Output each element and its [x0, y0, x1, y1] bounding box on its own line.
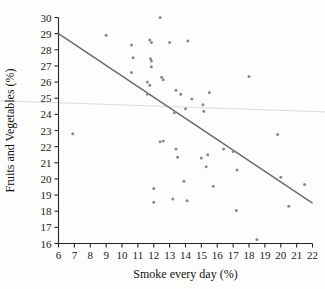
data-point: [152, 187, 155, 190]
data-point: [184, 107, 187, 110]
data-point: [174, 89, 177, 92]
x-tick-label: 18: [244, 249, 256, 261]
x-tick-label: 16: [212, 249, 224, 261]
data-point: [130, 43, 133, 46]
data-point: [173, 111, 176, 114]
data-point: [255, 238, 258, 241]
x-tick-label: 15: [196, 249, 208, 261]
x-tick-label: 22: [307, 249, 318, 261]
data-point: [146, 93, 149, 96]
data-point: [146, 81, 149, 84]
data-point: [171, 198, 174, 201]
data-point: [162, 78, 165, 81]
data-point: [190, 98, 193, 101]
y-tick-label: 21: [41, 157, 52, 169]
y-tick-label: 30: [41, 12, 53, 24]
data-point: [182, 180, 185, 183]
y-tick-label: 24: [41, 108, 53, 120]
data-point: [202, 110, 205, 113]
data-point: [303, 183, 306, 186]
data-point: [206, 153, 209, 156]
y-tick-label: 18: [41, 205, 53, 217]
data-point: [287, 205, 290, 208]
x-tick-label: 20: [275, 249, 287, 261]
y-tick-label: 25: [41, 92, 53, 104]
data-point: [186, 39, 189, 42]
x-tick-label: 17: [228, 249, 240, 261]
data-point: [235, 209, 238, 212]
y-tick-label: 20: [41, 173, 53, 185]
y-axis-title: Fruits and Vegetables (%): [3, 68, 17, 192]
data-point: [132, 56, 135, 59]
data-point: [208, 91, 211, 94]
x-tick-label: 12: [148, 249, 159, 261]
x-tick-label: 19: [259, 249, 271, 261]
y-tick-label: 27: [41, 60, 53, 72]
data-point: [162, 139, 165, 142]
data-points-group: [71, 16, 306, 241]
x-tick-label: 10: [117, 249, 129, 261]
data-point: [71, 132, 74, 135]
y-axis-ticks: 161718192021222324252627282930: [41, 12, 59, 250]
x-tick-label: 14: [180, 249, 192, 261]
data-point: [179, 93, 182, 96]
data-point: [200, 156, 203, 159]
data-point: [168, 41, 171, 44]
data-point: [232, 150, 235, 153]
y-tick-label: 17: [41, 221, 53, 233]
data-point: [222, 148, 225, 151]
data-point: [150, 41, 153, 44]
data-point: [279, 176, 282, 179]
data-point: [150, 65, 153, 68]
x-tick-label: 21: [291, 249, 302, 261]
axes-group: [59, 18, 313, 244]
y-tick-label: 22: [41, 141, 52, 153]
data-point: [276, 133, 279, 136]
y-tick-label: 23: [41, 125, 53, 137]
data-point: [248, 75, 251, 78]
x-tick-label: 11: [133, 249, 144, 261]
data-point: [152, 201, 155, 204]
data-point: [130, 71, 133, 74]
y-tick-label: 28: [41, 44, 53, 56]
data-point: [159, 16, 162, 19]
data-point: [148, 84, 151, 87]
data-point: [236, 169, 239, 172]
regression-line-group: [59, 34, 313, 204]
x-axis-ticks: 678910111213141516171819202122: [56, 244, 318, 261]
chart-canvas: 161718192021222324252627282930 678910111…: [0, 0, 325, 289]
data-point: [212, 185, 215, 188]
data-point: [176, 156, 179, 159]
data-point: [186, 199, 189, 202]
x-tick-label: 8: [88, 249, 94, 261]
x-tick-label: 7: [72, 249, 78, 261]
x-tick-label: 6: [56, 249, 62, 261]
y-tick-label: 29: [41, 28, 53, 40]
y-tick-label: 19: [41, 189, 53, 201]
regression-line: [59, 34, 313, 204]
scatter-plot-figure: 161718192021222324252627282930 678910111…: [0, 0, 325, 289]
data-point: [150, 60, 153, 63]
data-point: [159, 140, 162, 143]
data-point: [205, 165, 208, 168]
data-point: [201, 103, 204, 106]
x-tick-label: 13: [164, 249, 176, 261]
y-tick-label: 16: [41, 238, 53, 250]
data-point: [174, 148, 177, 151]
x-tick-label: 9: [103, 249, 109, 261]
data-point: [105, 34, 108, 37]
y-tick-label: 26: [41, 76, 53, 88]
x-axis-title: Smoke every day (%): [133, 267, 237, 281]
